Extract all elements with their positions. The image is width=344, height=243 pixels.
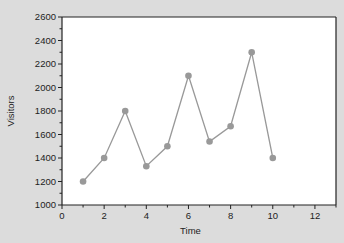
x-tick-label: 12 (310, 210, 321, 221)
data-point (143, 163, 150, 170)
y-tick-label: 1000 (35, 199, 56, 210)
line-chart: 100012001400160018002000220024002600 024… (0, 0, 344, 243)
x-axis: 024681012 (59, 205, 336, 221)
data-point (227, 123, 234, 130)
x-tick-label: 2 (102, 210, 107, 221)
data-point (164, 143, 171, 150)
x-axis-title: Time (180, 225, 201, 236)
y-axis: 100012001400160018002000220024002600 (35, 11, 62, 210)
y-tick-label: 2200 (35, 58, 56, 69)
data-point (101, 155, 108, 162)
plot-area (62, 17, 336, 205)
y-tick-label: 1600 (35, 129, 56, 140)
y-tick-label: 2600 (35, 11, 56, 22)
x-tick-label: 8 (228, 210, 233, 221)
y-tick-label: 1200 (35, 176, 56, 187)
data-point (80, 178, 87, 185)
y-axis-title: Visitors (5, 95, 16, 126)
y-tick-label: 1800 (35, 105, 56, 116)
data-point (185, 72, 192, 79)
data-point (248, 49, 255, 56)
x-tick-label: 0 (59, 210, 64, 221)
data-point (206, 138, 213, 145)
y-tick-label: 1400 (35, 152, 56, 163)
x-tick-label: 4 (144, 210, 149, 221)
x-tick-label: 6 (186, 210, 191, 221)
x-tick-label: 10 (267, 210, 278, 221)
data-point (122, 108, 129, 115)
y-tick-label: 2000 (35, 82, 56, 93)
y-tick-label: 2400 (35, 35, 56, 46)
data-point (269, 155, 276, 162)
